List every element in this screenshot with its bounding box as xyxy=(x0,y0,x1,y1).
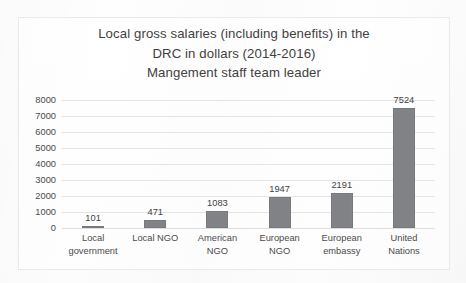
y-axis-tick-label: 2000 xyxy=(20,191,56,201)
x-axis-category-line: NGO xyxy=(250,245,310,258)
x-axis-category-line: Nations xyxy=(374,245,434,258)
y-axis-tick-label: 6000 xyxy=(20,127,56,137)
bar-value-label: 1083 xyxy=(207,198,228,209)
bar-slot: 1083 xyxy=(186,100,248,228)
x-axis-category-line: United xyxy=(374,232,434,245)
x-axis-category-label: Local NGO xyxy=(124,232,186,257)
bar-value-label: 1947 xyxy=(269,184,290,195)
bar-slot: 101 xyxy=(62,100,124,228)
bar-slot: 1947 xyxy=(249,100,311,228)
gridline xyxy=(62,228,435,229)
bar[interactable] xyxy=(269,197,291,228)
x-axis-category-label: AmericanNGO xyxy=(186,232,248,257)
y-axis-tick-label: 4000 xyxy=(20,159,56,169)
bar[interactable] xyxy=(144,220,166,228)
y-axis-tick-label: 1000 xyxy=(20,207,56,217)
bar-slot: 471 xyxy=(124,100,186,228)
bar-slot: 7524 xyxy=(373,100,435,228)
x-axis-category-line: American xyxy=(187,232,247,245)
chart-title-line-1: Local gross salaries (including benefits… xyxy=(18,24,450,44)
bar-value-label: 471 xyxy=(147,207,163,218)
y-axis-tick-label: 8000 xyxy=(20,95,56,105)
x-axis-category-label: Localgovernment xyxy=(62,232,124,257)
y-axis-tick-label: 7000 xyxy=(20,111,56,121)
x-axis-category-line: European xyxy=(250,232,310,245)
bar-slot: 2191 xyxy=(311,100,373,228)
chart-title-line-3: Mangement staff team leader xyxy=(18,63,450,83)
x-axis-category-line: government xyxy=(63,245,123,258)
x-axis-categories: LocalgovernmentLocal NGOAmericanNGOEurop… xyxy=(62,232,435,257)
y-axis-tick-label: 0 xyxy=(20,223,56,233)
bar[interactable] xyxy=(82,226,104,228)
bar[interactable] xyxy=(331,193,353,228)
bar[interactable] xyxy=(393,108,415,228)
x-axis-category-line: embassy xyxy=(312,245,372,258)
y-axis-tick-label: 3000 xyxy=(20,175,56,185)
x-axis-category-label: Europeanembassy xyxy=(311,232,373,257)
chart-title: Local gross salaries (including benefits… xyxy=(18,24,450,83)
bar-value-label: 2191 xyxy=(331,180,352,191)
x-axis-category-line: Local xyxy=(63,232,123,245)
plot-area: 1014711083194721917524 xyxy=(62,100,435,228)
bar-value-label: 7524 xyxy=(394,95,415,106)
x-axis-category-line: European xyxy=(312,232,372,245)
chart-title-line-2: DRC in dollars (2014-2016) xyxy=(18,44,450,64)
x-axis-category-label: EuropeanNGO xyxy=(249,232,311,257)
y-axis-tick-label: 5000 xyxy=(20,143,56,153)
x-axis-category-line: Local NGO xyxy=(125,232,185,245)
bar-series: 1014711083194721917524 xyxy=(62,100,435,228)
x-axis-category-label: UnitedNations xyxy=(373,232,435,257)
x-axis-category-line: NGO xyxy=(187,245,247,258)
bar-value-label: 101 xyxy=(85,213,101,224)
bar[interactable] xyxy=(206,211,228,228)
